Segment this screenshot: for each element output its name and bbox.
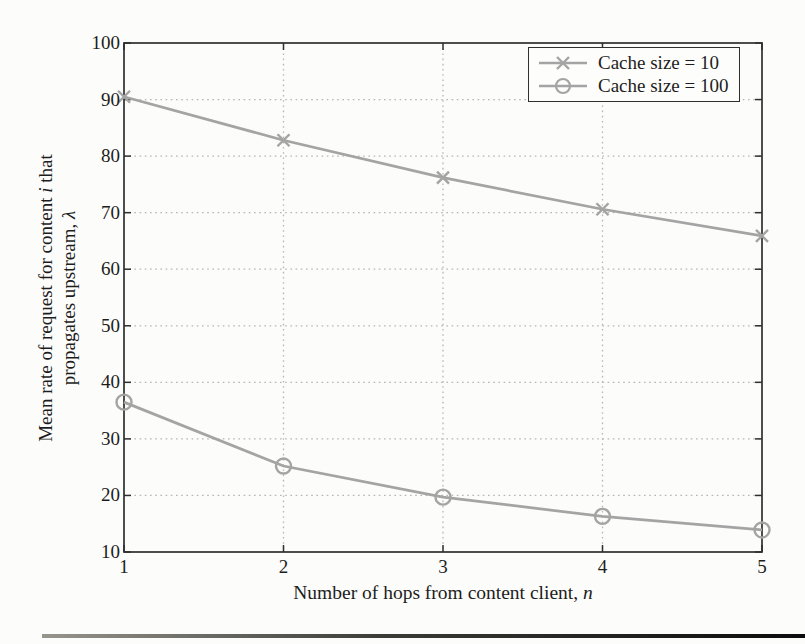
legend-item-cache-size-100: Cache size = 100 (537, 75, 731, 97)
y-tick-label: 90 (76, 89, 120, 111)
y-axis-label-line2: propagates upstream, λ (57, 38, 80, 558)
y-axis-label-lambda: λ (58, 211, 79, 219)
y-tick-label: 80 (76, 145, 120, 167)
x-axis-label-italic-n: n (583, 582, 593, 603)
x-tick-label: 1 (104, 556, 144, 578)
y-tick-label: 60 (76, 258, 120, 280)
x-axis-label-text: Number of hops from content client, (293, 582, 583, 603)
y-tick-label: 30 (76, 428, 120, 450)
x-tick-label: 3 (423, 556, 463, 578)
scanned-line-chart-figure: 10203040506070809010012345 Mean rate of … (0, 0, 805, 644)
y-tick-label: 50 (76, 315, 120, 337)
legend-marker-circle-icon (537, 77, 589, 95)
y-axis-label-text: propagates upstream, (58, 219, 79, 385)
series-line-o (124, 402, 762, 530)
legend-label: Cache size = 10 (598, 52, 719, 74)
y-tick-label: 40 (76, 371, 120, 393)
legend: Cache size = 10 Cache size = 100 (528, 47, 740, 102)
page-bottom-rule (42, 634, 805, 638)
legend-label: Cache size = 100 (598, 75, 728, 97)
y-axis-label-text: that (35, 154, 56, 187)
x-tick-label: 4 (583, 556, 623, 578)
y-axis-label-text: Mean rate of request for content (35, 193, 56, 442)
legend-marker-x-icon (537, 54, 589, 72)
y-axis-label-italic-i: i (35, 187, 56, 192)
y-axis-label: Mean rate of request for content i that … (34, 38, 80, 558)
y-tick-label: 20 (76, 484, 120, 506)
x-tick-label: 2 (264, 556, 304, 578)
legend-item-cache-size-10: Cache size = 10 (537, 52, 731, 74)
x-tick-label: 5 (742, 556, 782, 578)
y-axis-label-line1: Mean rate of request for content i that (34, 38, 57, 558)
x-axis-label: Number of hops from content client, n (143, 582, 743, 604)
y-tick-label: 70 (76, 202, 120, 224)
y-tick-label: 100 (76, 32, 120, 54)
